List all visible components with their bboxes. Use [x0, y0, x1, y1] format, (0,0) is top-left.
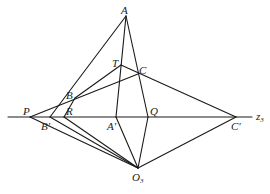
- segment-Bp-O3: [50, 117, 138, 168]
- segment-Q-O3: [138, 117, 148, 168]
- label-O3: O3: [132, 171, 144, 185]
- label-O3-sub: 3: [139, 177, 144, 185]
- label-P: P: [22, 105, 30, 117]
- label-A-prime: A': [106, 120, 117, 132]
- label-z3: z3: [255, 110, 264, 124]
- geometric-diagram: A T C B P B' R A' Q C' O3 z3: [0, 0, 270, 194]
- label-T: T: [112, 57, 119, 69]
- segment-Cp-O3: [138, 117, 236, 168]
- label-C: C: [139, 64, 147, 76]
- segment-C-P: [30, 74, 138, 117]
- label-B-prime: B': [41, 120, 51, 132]
- label-A: A: [120, 4, 128, 16]
- segments: [30, 16, 236, 168]
- label-z3-sub: 3: [259, 116, 264, 124]
- label-O3-main: O: [132, 171, 140, 183]
- label-Q: Q: [150, 105, 158, 117]
- label-B: B: [66, 89, 73, 101]
- label-C-prime: C': [231, 120, 241, 132]
- label-R: R: [65, 105, 73, 117]
- segment-T-B: [75, 65, 121, 98]
